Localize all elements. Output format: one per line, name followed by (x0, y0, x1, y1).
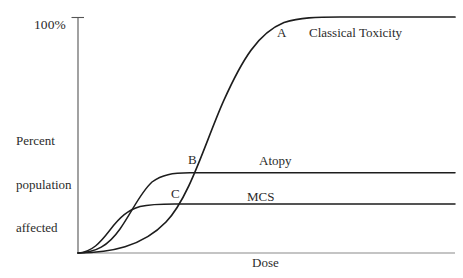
curve-mcs (78, 204, 455, 253)
y-axis-title-line-3: affected (16, 221, 72, 236)
curve-key-a: A (277, 25, 286, 40)
curve-name-classical-toxicity: Classical Toxicity (309, 25, 402, 40)
y-axis-title-line-1: Percent (16, 134, 72, 149)
curve-atopy (78, 173, 455, 253)
curve-key-c: C (171, 186, 180, 201)
y-axis-max-label: 100% (34, 17, 66, 33)
curve-name-atopy: Atopy (259, 153, 292, 168)
y-axis-title-line-2: population (16, 178, 72, 193)
dose-response-figure: 100% Percent population affected Dose A … (0, 0, 463, 278)
y-axis-title: Percent population affected (16, 105, 72, 265)
x-axis-title: Dose (252, 255, 279, 270)
curve-key-b: B (188, 152, 197, 167)
curve-name-mcs: MCS (247, 189, 274, 204)
curve-classical-toxicity (78, 17, 455, 253)
